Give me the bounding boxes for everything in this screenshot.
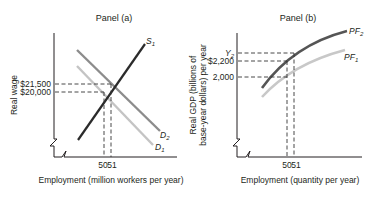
y-tick-2200: $2,200 xyxy=(208,56,234,66)
panel-a-y-label: Real wage xyxy=(9,75,19,115)
demand-curve-d1 xyxy=(77,66,153,145)
panel-b-y-axis xyxy=(233,33,240,157)
demand-curve-d2 xyxy=(77,50,160,131)
x-tick-51: 51 xyxy=(107,160,117,170)
panel-b-y-label-line2: base-year dollars) per year xyxy=(198,44,208,146)
panel-a-y-axis xyxy=(50,33,57,157)
label-s1: S1 xyxy=(146,36,155,47)
panel-b: Panel (b) Y2 $2,200 2,000 50 51 PF2 PF1 … xyxy=(188,13,364,185)
label-pf2: PF2 xyxy=(349,26,364,37)
panel-b-x-label: Employment (quantity per year) xyxy=(241,175,360,185)
panel-b-title: Panel (b) xyxy=(280,13,317,23)
figure: Panel (a) $21,500 $20,000 50 51 S1 D2 D1… xyxy=(0,0,368,201)
production-function-pf2 xyxy=(262,31,347,88)
label-pf1: PF1 xyxy=(344,52,358,63)
panel-a-guides xyxy=(55,84,111,157)
y-tick-20000: $20,000 xyxy=(20,87,51,97)
panel-b-guides xyxy=(238,53,294,157)
label-d1: D1 xyxy=(155,142,164,153)
panel-a-title: Panel (a) xyxy=(96,13,133,23)
panel-b-x-axis xyxy=(237,151,362,157)
label-d2: D2 xyxy=(160,130,170,141)
x-tick-51: 51 xyxy=(291,160,301,170)
panel-a: Panel (a) $21,500 $20,000 50 51 S1 D2 D1… xyxy=(9,13,184,185)
panel-a-x-label: Employment (million workers per year) xyxy=(38,175,183,185)
y-tick-2000: 2,000 xyxy=(213,72,235,82)
panel-b-y-label-line1: Real GDP (billions of xyxy=(188,55,198,134)
